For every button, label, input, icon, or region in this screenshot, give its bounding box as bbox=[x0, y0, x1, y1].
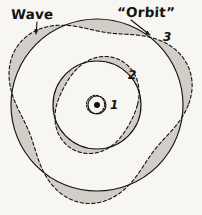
nucleus-dot bbox=[94, 102, 100, 108]
shaded-lobe-n3-6 bbox=[150, 37, 192, 117]
label-wave: Wave bbox=[11, 8, 54, 22]
label-orbit: “Orbit” bbox=[117, 6, 176, 20]
label-orbit-number-3: 3 bbox=[163, 31, 171, 43]
diagram-page: Wave “Orbit” 3 2 1 bbox=[0, 0, 202, 215]
wave-orbit-diagram bbox=[0, 0, 202, 215]
shaded-lobe-n2-1 bbox=[55, 118, 110, 154]
label-orbit-number-1: 1 bbox=[110, 99, 118, 111]
shaded-lobe-n3-4 bbox=[9, 25, 65, 93]
shaded-interference-regions bbox=[9, 19, 192, 203]
label-orbit-number-2: 2 bbox=[128, 69, 136, 81]
shaded-lobe-n3-2 bbox=[44, 173, 129, 204]
